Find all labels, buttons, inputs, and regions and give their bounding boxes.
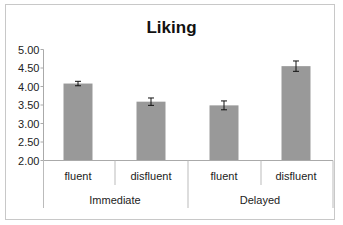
group-label: Delayed [240,194,280,206]
bar [137,102,166,161]
category-label: fluent [211,170,238,182]
bar [64,84,93,161]
y-tick-label: 4.00 [18,81,39,93]
y-tick-label: 3.50 [18,99,39,111]
x-axis: fluent disfluent fluent disfluent Immedi… [44,161,334,209]
y-tick-label: 3.00 [18,118,39,130]
group-label: Immediate [89,194,140,206]
bars [64,61,311,161]
category-label: disfluent [131,170,172,182]
bar [282,66,311,160]
category-label: fluent [65,170,92,182]
bar-chart: 5.004.504.003.503.002.502.00 fluent disf… [0,0,343,225]
y-tick-label: 4.50 [18,62,39,74]
bar [210,105,239,160]
y-tick-label: 5.00 [18,44,39,56]
y-tick-label: 2.50 [18,136,39,148]
y-tick-label: 2.00 [18,155,39,167]
y-axis: 5.004.504.003.503.002.502.00 [18,44,43,167]
category-label: disfluent [276,170,317,182]
